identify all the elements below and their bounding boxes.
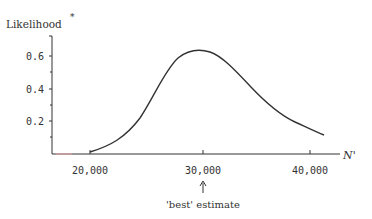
best-estimate-label: 'best' estimate <box>166 199 240 210</box>
y-axis-label-marker: * <box>70 12 75 22</box>
likelihood-chart: 0.6 0.4 0.2 20,000 30,000 40,000 Likelih… <box>0 0 372 219</box>
ytick-label-0.4: 0.4 <box>26 84 44 95</box>
best-estimate-arrow-icon <box>200 181 206 193</box>
x-axis-label: N' <box>342 149 356 162</box>
xtick-label-30000: 30,000 <box>185 165 221 176</box>
ytick-label-0.6: 0.6 <box>26 51 44 62</box>
xtick-label-20000: 20,000 <box>72 165 108 176</box>
likelihood-curve <box>90 50 324 152</box>
ytick-label-0.2: 0.2 <box>26 116 44 127</box>
x-ticks <box>90 150 310 154</box>
y-axis-label: Likelihood <box>6 18 62 30</box>
xtick-label-40000: 40,000 <box>292 165 328 176</box>
